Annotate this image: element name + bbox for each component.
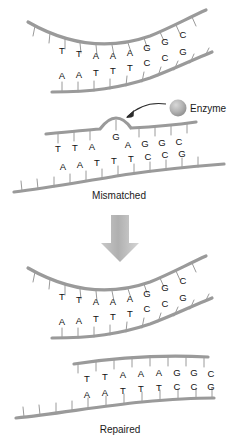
- base-letter: T: [138, 383, 144, 394]
- base-letter: A: [84, 389, 91, 400]
- base-letter: T: [84, 373, 90, 384]
- base-letter: G: [143, 288, 150, 299]
- base-letter: A: [102, 387, 109, 398]
- base-letter: C: [180, 29, 187, 40]
- base-letter: A: [59, 70, 66, 81]
- base-letter: T: [111, 155, 117, 166]
- base-letter: T: [59, 45, 65, 56]
- base-letter: A: [156, 367, 163, 378]
- base-letter: A: [120, 369, 127, 380]
- base-letter: G: [207, 381, 214, 392]
- base-letter: G: [178, 148, 185, 159]
- base-letter: A: [59, 316, 66, 327]
- base-letter: C: [162, 298, 169, 309]
- base-letter: G: [143, 42, 150, 53]
- dna-repair-diagram: T T A A A G G C A A T T: [0, 0, 242, 442]
- repaired-bottom-backbone: [16, 398, 214, 418]
- base-letter: A: [89, 141, 96, 152]
- base-letter: C: [174, 381, 181, 392]
- lower-bottom-ticks: [62, 294, 209, 338]
- figure-canvas: T T A A A G G C A A T T: [0, 0, 242, 442]
- repaired-caption: Repaired: [100, 424, 141, 435]
- base-letter: C: [176, 136, 183, 147]
- mismatched-bulge-base: G: [112, 131, 119, 142]
- bottom-strand-ticks: [62, 48, 209, 92]
- base-letter: A: [110, 296, 117, 307]
- base-letter: G: [179, 292, 186, 303]
- base-letter: T: [59, 291, 65, 302]
- base-letter: G: [158, 137, 165, 148]
- base-letter: A: [93, 296, 100, 307]
- repaired-top-backbone: [74, 356, 208, 364]
- mismatched-caption: Mismatched: [92, 190, 146, 201]
- panel-normal-lower: T T A A A G G C A A T T T: [28, 256, 212, 338]
- base-letter: T: [110, 65, 116, 76]
- panel-repaired: T T A A A G G C A A T T: [16, 356, 215, 435]
- base-letter: T: [76, 294, 82, 305]
- base-letter: C: [180, 275, 187, 286]
- mismatched-bottom-backbone: [14, 164, 224, 192]
- base-letter: C: [145, 151, 152, 162]
- base-letter: A: [138, 368, 145, 379]
- base-letter: C: [162, 149, 169, 160]
- base-letter: G: [161, 282, 168, 293]
- mismatched-top-backbone: [46, 118, 196, 134]
- enzyme-label: Enzyme: [190, 103, 227, 114]
- base-letter: A: [76, 315, 83, 326]
- base-letter: C: [162, 52, 169, 63]
- enzyme-annotation: Enzyme: [126, 100, 227, 119]
- base-letter: T: [93, 67, 99, 78]
- base-letter: G: [173, 367, 180, 378]
- panel-normal-top: T T A A A G G C A A T T: [28, 10, 212, 92]
- base-letter: A: [127, 293, 134, 304]
- base-letter: A: [93, 50, 100, 61]
- base-letter: T: [128, 153, 134, 164]
- base-letter: T: [72, 142, 78, 153]
- base-letter: C: [208, 368, 215, 379]
- base-letter: C: [191, 381, 198, 392]
- base-letter: T: [156, 382, 162, 393]
- base-letter: G: [161, 36, 168, 47]
- base-letter: T: [120, 385, 126, 396]
- base-letter: T: [55, 143, 61, 154]
- base-letter: C: [144, 57, 151, 68]
- base-letter: G: [141, 138, 148, 149]
- base-letter: T: [127, 62, 133, 73]
- base-letter: A: [110, 50, 117, 61]
- base-letter: G: [179, 46, 186, 57]
- enzyme-pointer-arrowhead: [126, 110, 134, 118]
- base-letter: T: [93, 313, 99, 324]
- base-letter: T: [76, 48, 82, 59]
- base-letter: A: [76, 69, 83, 80]
- process-down-arrow-icon: [101, 215, 139, 262]
- base-letter: T: [94, 157, 100, 168]
- base-letter: A: [77, 159, 84, 170]
- base-letter: T: [110, 311, 116, 322]
- base-letter: A: [125, 139, 132, 150]
- base-letter: T: [127, 308, 133, 319]
- base-letter: G: [190, 367, 197, 378]
- enzyme-sphere-icon: [170, 100, 187, 117]
- base-letter: A: [60, 161, 67, 172]
- panel-mismatched: G T T A A G G C A A: [14, 118, 224, 201]
- base-letter: T: [102, 371, 108, 382]
- base-letter: C: [144, 303, 151, 314]
- base-letter: A: [127, 47, 134, 58]
